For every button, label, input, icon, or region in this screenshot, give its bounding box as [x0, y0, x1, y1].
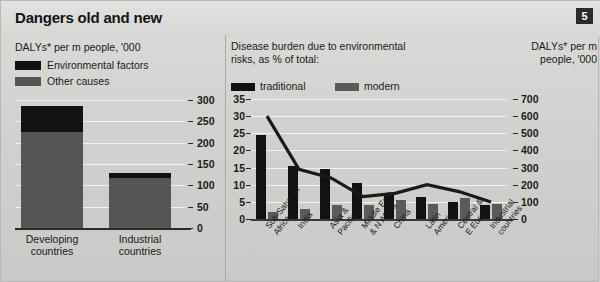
- left-chart-y-tick-label: 100: [197, 179, 215, 191]
- right-chart-left-tick-label: 0: [227, 213, 245, 225]
- page-title: Dangers old and new: [15, 9, 162, 26]
- right-chart-right-tick-mark: [513, 185, 518, 186]
- left-chart-gridline: [15, 100, 185, 101]
- right-axis-title-line2: people, '000: [540, 53, 597, 65]
- right-chart-daly-line: [267, 116, 491, 202]
- left-chart-y-tick-label: 250: [197, 115, 215, 127]
- right-chart-left-tick-label: 20: [227, 144, 245, 156]
- legend-swatch-other-causes: [15, 77, 41, 86]
- right-chart-left-tick-label: 15: [227, 162, 245, 174]
- left-chart-panel: DALYs* per m people, '000 Environmental …: [1, 35, 225, 282]
- panel-divider: [225, 35, 226, 281]
- left-chart-bar: [109, 173, 171, 228]
- right-chart-left-tick-label: 5: [227, 196, 245, 208]
- right-chart-right-tick-label: 200: [521, 179, 547, 191]
- right-chart-title-line1: Disease burden due to environmental: [231, 40, 406, 52]
- legend-label-traditional: traditional: [260, 80, 306, 92]
- right-chart-panel: Disease burden due to environmental risk…: [227, 35, 599, 282]
- left-chart-y-tick-label: 50: [197, 201, 209, 213]
- left-chart-bar-segment-environmental-factors: [21, 106, 83, 132]
- left-chart-y-tick-mark: [188, 164, 193, 165]
- right-chart-right-tick-mark: [513, 150, 518, 151]
- right-axis-title-line1: DALYs* per m: [531, 40, 597, 52]
- left-chart-category-line2: countries: [119, 245, 162, 257]
- left-chart-category-line1: Industrial: [119, 233, 162, 245]
- legend-item-other-causes: Other causes: [15, 75, 109, 87]
- left-chart-y-tick-mark: [188, 207, 193, 208]
- right-chart-right-tick-mark: [513, 116, 518, 117]
- left-chart-category-label: Developingcountries: [9, 233, 95, 257]
- right-chart-left-tick-mark: [246, 150, 251, 151]
- legend-swatch-environmental-factors: [15, 61, 41, 70]
- right-chart-left-tick-mark: [246, 168, 251, 169]
- left-chart-baseline: [15, 228, 191, 230]
- right-chart-title-line2: risks, as % of total:: [231, 53, 319, 65]
- right-chart-left-tick-mark: [246, 116, 251, 117]
- legend-item-modern: modern: [335, 80, 400, 92]
- right-chart-secondary-axis-title: DALYs* per m people, '000: [511, 40, 597, 65]
- left-chart-y-tick-mark: [188, 228, 193, 229]
- left-chart-y-tick-label: 200: [197, 137, 215, 149]
- left-chart-subtitle: DALYs* per m people, '000: [15, 41, 141, 53]
- right-chart-left-tick-label: 25: [227, 127, 245, 139]
- left-chart-y-tick-label: 300: [197, 94, 215, 106]
- right-chart-right-tick-label: 100: [521, 196, 547, 208]
- right-chart-right-tick-mark: [513, 202, 518, 203]
- right-chart-left-tick-mark: [246, 99, 251, 100]
- header-bar: Dangers old and new 5: [1, 1, 600, 37]
- left-chart-y-tick-label: 150: [197, 158, 215, 170]
- left-chart-bar-segment-environmental-factors: [109, 173, 171, 177]
- right-chart-right-tick-label: 0: [521, 213, 547, 225]
- legend-swatch-modern: [335, 83, 359, 91]
- right-chart-right-tick-mark: [513, 168, 518, 169]
- page-number-badge: 5: [576, 8, 593, 24]
- left-chart-y-axis: 300250200150100500: [187, 95, 223, 233]
- right-chart-right-tick-label: 400: [521, 144, 547, 156]
- left-chart-category-line2: countries: [31, 245, 74, 257]
- right-chart-right-tick-label: 500: [521, 127, 547, 139]
- left-chart-y-tick-mark: [188, 100, 193, 101]
- left-chart-y-tick-mark: [188, 185, 193, 186]
- legend-label-other-causes: Other causes: [47, 75, 109, 87]
- left-chart-bar: [21, 106, 83, 228]
- left-chart-category-line1: Developing: [26, 233, 79, 245]
- legend-item-traditional: traditional: [231, 80, 306, 92]
- right-chart-left-tick-mark: [246, 219, 251, 220]
- right-chart-category-labels: Sub-SaharanAfricaIndiaAsia &PacificMiddl…: [227, 221, 599, 281]
- right-chart-left-tick-label: 10: [227, 179, 245, 191]
- right-chart-right-tick-label: 300: [521, 162, 547, 174]
- right-chart-right-tick-mark: [513, 219, 518, 220]
- legend-label-environmental-factors: Environmental factors: [47, 59, 149, 71]
- right-chart-left-tick-mark: [246, 185, 251, 186]
- right-chart-right-tick-label: 600: [521, 110, 547, 122]
- left-chart-plot-area: [15, 100, 185, 228]
- right-chart-left-tick-mark: [246, 133, 251, 134]
- left-chart-bar-segment-other-causes: [21, 132, 83, 228]
- right-chart-left-tick-mark: [246, 202, 251, 203]
- legend-swatch-traditional: [231, 83, 255, 91]
- right-chart-title: Disease burden due to environmental risk…: [231, 40, 461, 65]
- right-chart-right-tick-mark: [513, 133, 518, 134]
- left-chart-bar-segment-other-causes: [109, 178, 171, 228]
- right-chart-right-tick-label: 700: [521, 93, 547, 105]
- right-chart-right-tick-mark: [513, 99, 518, 100]
- left-chart-y-tick-mark: [188, 121, 193, 122]
- left-chart-y-tick-label: 0: [197, 222, 203, 234]
- right-chart-left-tick-label: 35: [227, 93, 245, 105]
- right-chart-left-tick-label: 30: [227, 110, 245, 122]
- legend-label-modern: modern: [364, 80, 400, 92]
- left-chart-y-tick-mark: [188, 143, 193, 144]
- legend-item-environmental-factors: Environmental factors: [15, 59, 149, 71]
- left-chart-category-label: Industrialcountries: [97, 233, 183, 257]
